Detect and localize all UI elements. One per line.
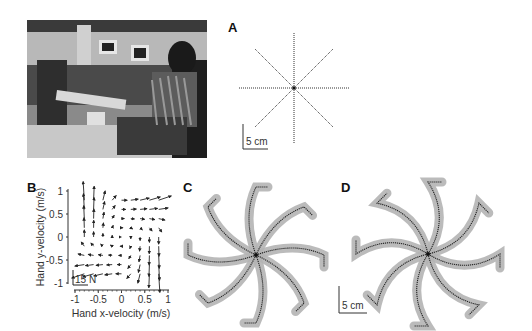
force-vector [112,196,116,201]
force-vector [149,274,150,288]
force-vector [149,219,154,220]
force-vector [101,244,103,246]
force-vector [128,265,131,269]
force-vector [131,199,138,200]
scale-bar-label-a: 5 cm [246,136,268,147]
panel-c-trajectories [188,187,324,323]
y-tick-label: 0 [57,232,63,243]
force-scale-label: 15 N [75,274,96,285]
force-vector [96,265,103,266]
center-point [426,252,430,256]
y-tick-label: 0.5 [49,209,63,220]
force-vector [140,219,145,220]
force-vector [140,228,142,230]
force-vector [140,209,147,210]
force-vector [139,255,140,261]
center-point [254,253,258,257]
x-tick-label: 1 [165,294,171,305]
force-vector [131,228,133,229]
force-vector [140,246,141,251]
trajectory-a [254,88,294,128]
x-tick-label: 0 [119,294,125,305]
shaded-region [428,182,442,254]
scale-bar-label-d: 5 cm [342,300,364,311]
force-vector [159,219,165,220]
force-vector [84,206,85,219]
force-vector [88,254,93,255]
force-vector [103,191,105,200]
force-vector [149,197,160,200]
force-vector [140,198,149,200]
panel-b-force-field: 10.50-0.5-1 -1-0.500.51 Hand x-velocity … [34,181,171,319]
force-vector [138,274,140,283]
force-vector [75,265,85,266]
force-vector [149,208,157,209]
force-vector [85,265,93,266]
shaded-region [414,254,428,326]
y-tick-label: 1 [57,186,63,197]
force-vector [103,223,104,228]
trajectory-a [254,48,294,88]
force-vector [138,265,140,273]
force-vector [105,274,112,275]
y-tick-label: -0.5 [46,255,64,266]
force-vector [112,225,113,228]
force-vector [78,254,84,255]
trajectory-a [294,48,334,88]
force-vector [112,205,115,209]
panel-d-scale-bar: 5 cm [339,286,367,313]
y-tick-label: -1 [54,278,63,289]
force-vector [112,215,114,218]
force-vector [103,212,104,218]
force-vector [98,255,103,256]
force-vector [159,228,162,232]
trajectory-a [294,88,334,128]
panel-a-scale-bar: 5 cm [243,124,268,149]
y-axis-title: Hand y-velocity (m/s) [34,188,46,287]
force-vector [110,245,112,246]
x-tick-label: -0.5 [90,294,108,305]
shaded-region [356,240,428,254]
force-vector [127,274,131,279]
figure-canvas: 5 cm 10.50-0.5-1 -1-0.500.51 Hand x-velo… [0,0,532,331]
force-vector [129,255,131,258]
force-vector [91,243,94,246]
center-point-a [292,86,296,90]
shaded-region [428,254,500,268]
x-tick-label: 0.5 [138,294,152,305]
force-vector [81,242,84,246]
force-vector [103,201,105,209]
force-vector [159,208,169,209]
force-scale-bar: 15 N [73,270,96,285]
x-tick-label: -1 [71,294,80,305]
force-vector [159,196,172,200]
panel-a-trajectories [238,32,350,144]
force-vector [149,228,152,231]
x-axis-title: Hand x-velocity (m/s) [72,307,171,319]
force-vector [130,246,131,249]
